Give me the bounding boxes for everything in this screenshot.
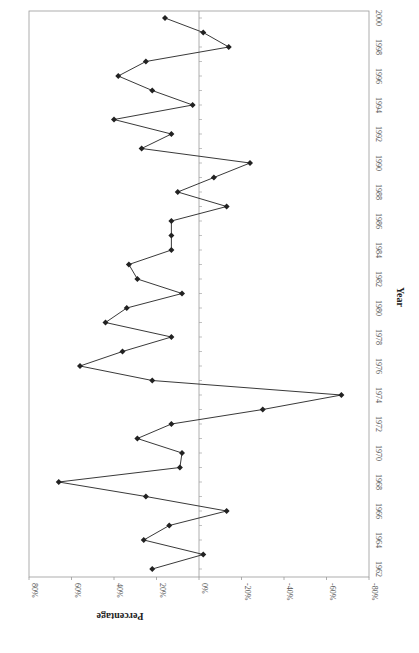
year-tick-label: 1988 — [374, 184, 383, 200]
percentage-axis-title: Percentage — [96, 611, 144, 622]
percentage-tick-label: -40% — [285, 583, 294, 601]
year-tick-label: 1970 — [374, 445, 383, 461]
percentage-tick-label: 0% — [200, 583, 209, 594]
chart: 80%60%40%20%0%-20%-40%-60%-80% 196219641… — [0, 0, 419, 653]
year-tick-label: 2000 — [374, 10, 383, 26]
year-tick-label: 1966 — [374, 503, 383, 519]
year-axis-title: Year — [395, 287, 406, 308]
year-tick-label: 1962 — [374, 561, 383, 577]
percentage-tick-label: 40% — [115, 583, 124, 598]
year-tick-label: 1994 — [374, 97, 383, 113]
percentage-tick-label: 60% — [73, 583, 82, 598]
percentage-tick-label: -80% — [370, 583, 379, 601]
year-tick-label: 1976 — [374, 358, 383, 374]
year-tick-label: 1974 — [374, 387, 383, 403]
year-tick-label: 1992 — [374, 126, 383, 142]
year-tick-label: 1984 — [374, 242, 383, 258]
year-tick-label: 1990 — [374, 155, 383, 171]
percentage-axis-ticks: 80%60%40%20%0%-20%-40%-60%-80% — [29, 577, 379, 601]
year-tick-label: 1964 — [374, 532, 383, 548]
year-tick-label: 1980 — [374, 300, 383, 316]
year-tick-label: 1968 — [374, 474, 383, 490]
year-tick-label: 1972 — [374, 416, 383, 432]
year-tick-label: 1998 — [374, 39, 383, 55]
year-tick-label: 1986 — [374, 213, 383, 229]
percentage-tick-label: -20% — [243, 583, 252, 601]
percentage-tick-label: -60% — [328, 583, 337, 601]
year-tick-label: 1982 — [374, 271, 383, 287]
percentage-tick-label: 20% — [158, 583, 167, 598]
percentage-tick-label: 80% — [30, 583, 39, 598]
year-tick-label: 1978 — [374, 329, 383, 345]
year-tick-label: 1996 — [374, 68, 383, 84]
